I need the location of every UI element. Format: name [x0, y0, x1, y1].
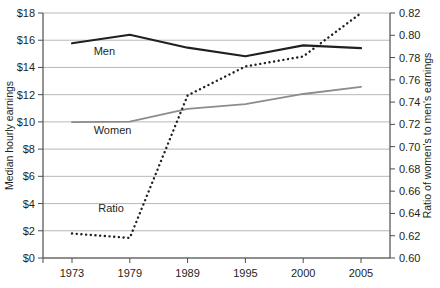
left-axis-tick-label: $6 — [23, 170, 35, 182]
left-axis-tick-label: $10 — [17, 116, 35, 128]
right-axis-tick-label: 0.78 — [399, 52, 420, 64]
right-axis-tick-label: 0.72 — [399, 118, 420, 130]
right-axis-tick-label: 0.80 — [399, 29, 420, 41]
series-label-ratio: Ratio — [98, 202, 124, 214]
right-axis-tick-label: 0.60 — [399, 252, 420, 264]
right-axis-tick-label: 0.76 — [399, 74, 420, 86]
left-axis-tick-label: $2 — [23, 225, 35, 237]
series-line-women — [72, 87, 361, 122]
x-axis-tick-label: 1973 — [60, 267, 84, 279]
right-axis-title: Ratio of women's to men's earnings — [421, 53, 433, 219]
x-axis-tick-label: 2000 — [291, 267, 315, 279]
earnings-ratio-line-chart: $0$2$4$6$8$10$12$14$16$180.600.620.640.6… — [0, 0, 440, 288]
x-axis-tick-label: 1989 — [175, 267, 199, 279]
series-label-men: Men — [94, 45, 115, 57]
x-axis-tick-label: 1979 — [118, 267, 142, 279]
left-axis-tick-label: $16 — [17, 34, 35, 46]
right-axis-tick-label: 0.66 — [399, 185, 420, 197]
right-axis-tick-label: 0.68 — [399, 163, 420, 175]
left-axis-tick-label: $12 — [17, 89, 35, 101]
right-axis-tick-label: 0.70 — [399, 141, 420, 153]
right-axis-tick-label: 0.62 — [399, 230, 420, 242]
left-axis-tick-label: $18 — [17, 7, 35, 19]
left-axis-title: Median hourly earnings — [3, 81, 15, 190]
right-axis-tick-label: 0.74 — [399, 96, 420, 108]
chart-container: $0$2$4$6$8$10$12$14$16$180.600.620.640.6… — [0, 0, 440, 288]
left-axis-tick-label: $4 — [23, 198, 35, 210]
left-axis-tick-label: $14 — [17, 61, 35, 73]
right-axis-tick-label: 0.82 — [399, 7, 420, 19]
left-axis-tick-label: $0 — [23, 252, 35, 264]
left-axis-tick-label: $8 — [23, 143, 35, 155]
series-label-women: Women — [94, 124, 132, 136]
right-axis-tick-label: 0.64 — [399, 207, 420, 219]
x-axis-tick-label: 2005 — [349, 267, 373, 279]
x-axis-tick-label: 1995 — [233, 267, 257, 279]
